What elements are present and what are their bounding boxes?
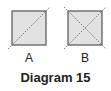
panel-b-square: [64, 7, 106, 49]
panel-b-label: B: [75, 51, 95, 65]
diagram-caption: Diagram 15: [0, 70, 111, 85]
panel-a-square: [8, 7, 50, 49]
panel-a-label: A: [19, 51, 39, 65]
